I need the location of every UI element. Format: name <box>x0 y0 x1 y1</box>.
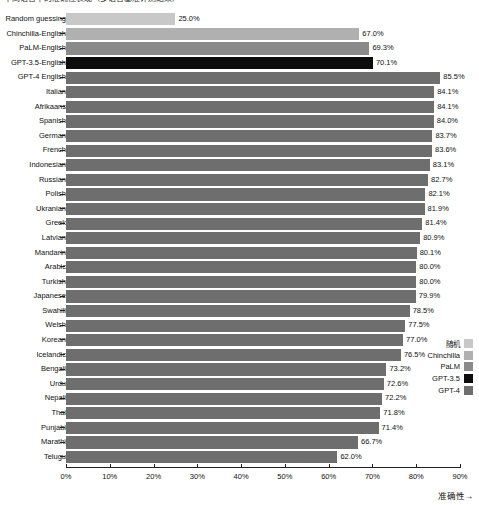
legend-item[interactable]: Chinchilla <box>399 350 473 362</box>
x-axis-title: 准确性→ <box>438 489 474 501</box>
bar-row: Arabic80.0% <box>0 260 479 275</box>
bar-value-label: 77.5% <box>408 318 429 333</box>
bar <box>66 378 384 390</box>
legend-item-label: GPT-3.5 <box>432 374 460 383</box>
x-axis-tick <box>66 464 67 468</box>
bar <box>66 28 359 40</box>
legend-item-label: GPT-4 <box>438 386 460 395</box>
bar-row: PaLM-English69.3% <box>0 41 479 56</box>
bar <box>66 42 369 54</box>
bar-value-label: 80.0% <box>419 260 440 275</box>
y-axis-tick <box>60 179 65 180</box>
legend-item[interactable]: GPT-4 <box>399 384 473 396</box>
x-axis-tick-label: 20% <box>146 472 161 481</box>
bar-row: GPT-3.5-English70.1% <box>0 56 479 71</box>
legend-color-swatch <box>464 362 473 371</box>
y-axis-tick <box>60 91 65 92</box>
bar-value-label: 83.6% <box>435 143 456 158</box>
y-axis-tick <box>60 266 65 267</box>
legend-item[interactable]: PaLM <box>399 361 473 373</box>
y-axis-tick <box>60 442 65 443</box>
bar-value-label: 80.1% <box>420 246 441 261</box>
y-axis-tick <box>60 456 65 457</box>
x-axis-line <box>66 467 460 468</box>
legend-item[interactable]: GPT-3.5 <box>399 373 473 385</box>
bar <box>66 261 416 273</box>
bar-row: Ukranian81.9% <box>0 202 479 217</box>
chart-title: 不同语言下的准确性表现（多语言基准评测结果） <box>4 0 180 5</box>
bar-category-label: GPT-4 English <box>18 70 66 85</box>
bar <box>66 393 382 405</box>
bar-category-label: PaLM-English <box>19 41 66 56</box>
bar-value-label: 66.7% <box>361 435 382 450</box>
y-axis-tick <box>60 106 65 107</box>
legend-color-swatch <box>464 386 473 395</box>
bar-row: Random guessing25.0% <box>0 12 479 27</box>
bar-row: Japanese79.9% <box>0 289 479 304</box>
bar <box>66 305 410 317</box>
x-axis-tick <box>329 464 330 468</box>
bar <box>66 436 358 448</box>
bar <box>66 174 428 186</box>
bar-value-label: 67.0% <box>362 27 383 42</box>
bar-value-label: 80.9% <box>423 231 444 246</box>
bar <box>66 86 434 98</box>
bar <box>66 320 405 332</box>
bar-row: Mandarin80.1% <box>0 246 479 261</box>
legend-item-label: 随机 <box>446 338 460 349</box>
bar-value-label: 84.0% <box>437 114 458 129</box>
y-axis-tick <box>60 150 65 151</box>
x-axis-tick <box>197 464 198 468</box>
y-axis-tick <box>60 369 65 370</box>
y-axis-tick <box>60 412 65 413</box>
bar-row: Thai71.8% <box>0 406 479 421</box>
bar-value-label: 25.0% <box>178 12 199 27</box>
y-axis-tick <box>60 339 65 340</box>
bar <box>66 407 380 419</box>
chart-legend: 随机ChinchillaPaLMGPT-3.5GPT-4 <box>399 338 473 396</box>
x-axis-tick-label: 0% <box>61 472 72 481</box>
y-axis-tick <box>60 310 65 311</box>
bar <box>66 349 401 361</box>
bar-value-label: 84.1% <box>437 100 458 115</box>
bar-category-label: Random guessing <box>6 12 66 27</box>
bar-value-label: 78.5% <box>413 304 434 319</box>
y-axis-tick <box>60 354 65 355</box>
bar-row: Swahili78.5% <box>0 304 479 319</box>
bar-row: Telugu62.0% <box>0 450 479 465</box>
y-axis-tick <box>60 208 65 209</box>
legend-item[interactable]: 随机 <box>399 338 473 350</box>
legend-item-label: Chinchilla <box>427 351 460 360</box>
bar <box>66 115 434 127</box>
y-axis-tick <box>60 194 65 195</box>
bar-value-label: 81.9% <box>428 202 449 217</box>
bar <box>66 13 175 25</box>
bar-value-label: 71.8% <box>383 406 404 421</box>
bar-value-label: 83.1% <box>433 158 454 173</box>
y-axis-tick <box>60 77 65 78</box>
legend-color-swatch <box>464 351 473 360</box>
x-axis-tick-label: 80% <box>409 472 424 481</box>
legend-item-label: PaLM <box>440 362 460 371</box>
bar-row: GPT-4 English85.5% <box>0 70 479 85</box>
bar-row: Spanish84.0% <box>0 114 479 129</box>
y-axis-tick <box>60 427 65 428</box>
bar-value-label: 80.0% <box>419 275 440 290</box>
bar-row: Chinchilla-English67.0% <box>0 27 479 42</box>
x-axis-tick <box>416 464 417 468</box>
x-axis: 准确性→ 0%10%20%30%40%50%60%70%80%90% <box>0 467 479 505</box>
x-axis-tick-label: 70% <box>365 472 380 481</box>
y-axis-tick <box>60 325 65 326</box>
x-axis-tick-label: 10% <box>102 472 117 481</box>
y-axis-tick <box>60 48 65 49</box>
bar-value-label: 79.9% <box>419 289 440 304</box>
bar <box>66 57 373 69</box>
bar <box>66 334 403 346</box>
x-axis-tick <box>460 464 461 468</box>
bar-row: Russian82.7% <box>0 173 479 188</box>
bar-value-label: 71.4% <box>382 421 403 436</box>
y-axis-tick <box>60 237 65 238</box>
y-axis-tick <box>60 252 65 253</box>
y-axis-tick <box>60 164 65 165</box>
y-axis-tick <box>60 62 65 63</box>
